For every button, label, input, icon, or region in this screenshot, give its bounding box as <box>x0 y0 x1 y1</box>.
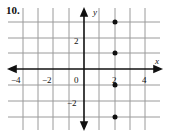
x-axis-arrow-right-icon <box>154 66 161 72</box>
tick-y-neg2: −2 <box>67 98 77 108</box>
tick-origin: 0 <box>74 75 79 85</box>
tick-x-4: 4 <box>142 75 147 85</box>
tick-x-neg4: −4 <box>11 75 21 85</box>
point-2-neg1 <box>113 83 118 88</box>
x-axis-arrow-left-icon <box>9 66 16 72</box>
y-axis-arrow-up-icon <box>81 9 87 16</box>
tick-y-2: 2 <box>74 36 79 46</box>
coordinate-plane: y x −4 −2 0 2 4 2 −2 <box>0 0 169 137</box>
point-2-neg3 <box>113 115 118 120</box>
y-axis-arrow-down-icon <box>81 122 87 129</box>
y-axis-label: y <box>92 7 97 17</box>
axes <box>9 9 161 129</box>
point-2-3 <box>113 20 118 25</box>
tick-x-neg2: −2 <box>42 75 52 85</box>
x-axis-label: x <box>154 56 159 66</box>
point-2-1 <box>113 51 118 56</box>
